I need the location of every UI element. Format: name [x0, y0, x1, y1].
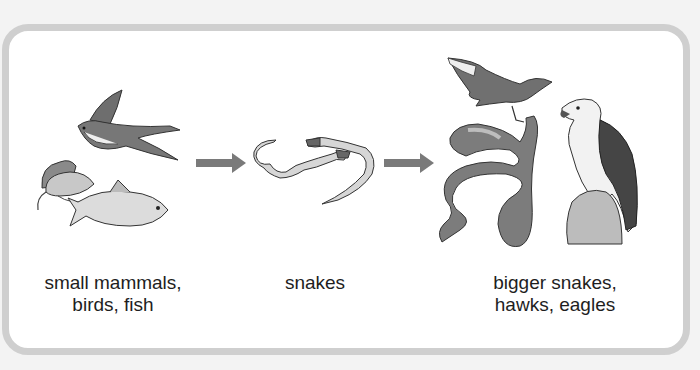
- large-snake-icon: [306, 138, 374, 205]
- arrow-icon: [196, 152, 248, 174]
- stage-label-snakes: snakes: [245, 272, 385, 294]
- snakes-illustration: [252, 134, 382, 206]
- hawk-icon: [448, 58, 552, 122]
- big-snake-icon: [439, 116, 537, 247]
- predators-illustration: [436, 54, 650, 254]
- prey-animals-illustration: [30, 88, 190, 238]
- stage-label-prey: small mammals, birds, fish: [18, 272, 208, 316]
- swallow-bird-icon: [78, 90, 180, 160]
- eagle-icon: [560, 99, 637, 244]
- stage-label-predators: bigger snakes, hawks, eagles: [460, 272, 650, 316]
- arrow-icon: [384, 152, 436, 174]
